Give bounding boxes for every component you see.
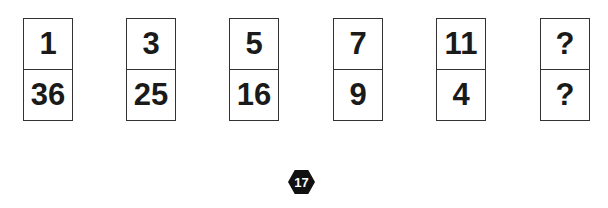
domino-top-value: 11 <box>437 19 485 70</box>
domino-bottom-value: 25 <box>127 70 175 121</box>
domino-3: 5 16 <box>229 18 279 121</box>
domino-bottom-value: 4 <box>437 70 485 121</box>
domino-bottom-value: 16 <box>230 70 278 121</box>
domino-2: 3 25 <box>126 18 176 121</box>
domino-top-value: 3 <box>127 19 175 70</box>
domino-5: 11 4 <box>436 18 486 121</box>
domino-6-unknown: ? ? <box>540 18 590 121</box>
domino-4: 7 9 <box>333 18 383 121</box>
domino-top-value: 5 <box>230 19 278 70</box>
domino-bottom-value: ? <box>541 70 589 121</box>
domino-top-value: ? <box>541 19 589 70</box>
domino-top-value: 7 <box>334 19 382 70</box>
puzzle-number-hexagon-badge: 17 <box>288 170 315 194</box>
domino-1: 1 36 <box>23 18 73 121</box>
domino-top-value: 1 <box>24 19 72 70</box>
domino-bottom-value: 9 <box>334 70 382 121</box>
domino-bottom-value: 36 <box>24 70 72 121</box>
